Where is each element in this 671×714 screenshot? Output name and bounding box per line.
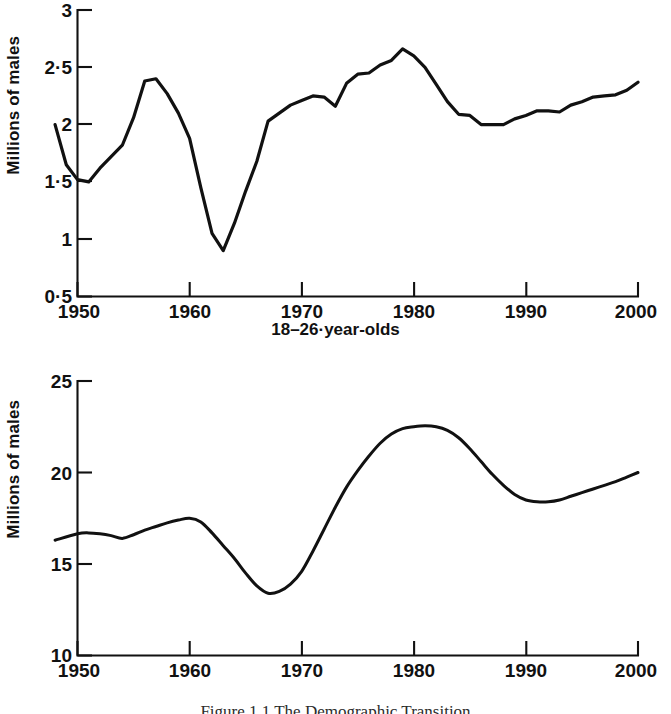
y-tick-label-bottom-15: 15: [51, 554, 73, 575]
x-tick-label-bottom-1990: 1990: [505, 660, 547, 681]
y-tick-label-top-2: 2: [61, 114, 72, 135]
x-tick-label-bottom-1950: 1950: [58, 660, 100, 681]
axis-lines-top: [78, 10, 639, 297]
x-tick-label-top-1960: 1960: [169, 301, 211, 322]
figure-caption: Figure 1.1 The Demographic Transition: [0, 702, 671, 714]
y-tick-label-top-2p5: 2·5: [45, 57, 73, 78]
x-tick-label-top-1950: 1950: [58, 301, 100, 322]
chart-panel-top: Millions of males 3 2·5 2 1·5 1 0·5: [0, 0, 671, 350]
y-tick-label-bottom-20: 20: [51, 463, 72, 484]
bottom-chart-plot: 25 20 15 10 1950 1960 1970 1980 1990 200…: [0, 350, 671, 714]
y-tick-label-top-3: 3: [61, 0, 72, 21]
data-line-bottom: [55, 426, 638, 594]
y-tick-marks-bottom: [78, 381, 93, 656]
x-tick-label-top-1980: 1980: [393, 301, 435, 322]
y-tick-label-bottom-25: 25: [51, 371, 73, 392]
y-tick-label-top-1: 1: [61, 229, 72, 250]
figure-container: Millions of males 3 2·5 2 1·5 1 0·5: [0, 0, 671, 714]
x-tick-label-bottom-2000: 2000: [615, 660, 657, 681]
data-line-top: [55, 49, 638, 251]
y-tick-label-top-1p5: 1·5: [45, 171, 73, 192]
x-tick-label-bottom-1960: 1960: [169, 660, 211, 681]
top-chart-plot: 3 2·5 2 1·5 1 0·5 1950 1960 1970 1980 19…: [0, 0, 671, 350]
x-tick-label-bottom-1970: 1970: [281, 660, 323, 681]
axis-lines-bottom: [78, 381, 639, 656]
x-tick-label-top-1990: 1990: [505, 301, 547, 322]
x-tick-marks-top: [78, 282, 639, 297]
x-tick-label-top-1970: 1970: [281, 301, 323, 322]
x-tick-label-top-2000: 2000: [615, 301, 657, 322]
x-axis-label-top: 18–26·year-olds: [0, 320, 671, 340]
chart-panel-bottom: Millions of males 25 20 15 10 1950: [0, 350, 671, 714]
x-tick-label-bottom-1980: 1980: [393, 660, 435, 681]
y-tick-marks-top: [78, 10, 93, 297]
x-tick-marks-bottom: [78, 641, 639, 656]
